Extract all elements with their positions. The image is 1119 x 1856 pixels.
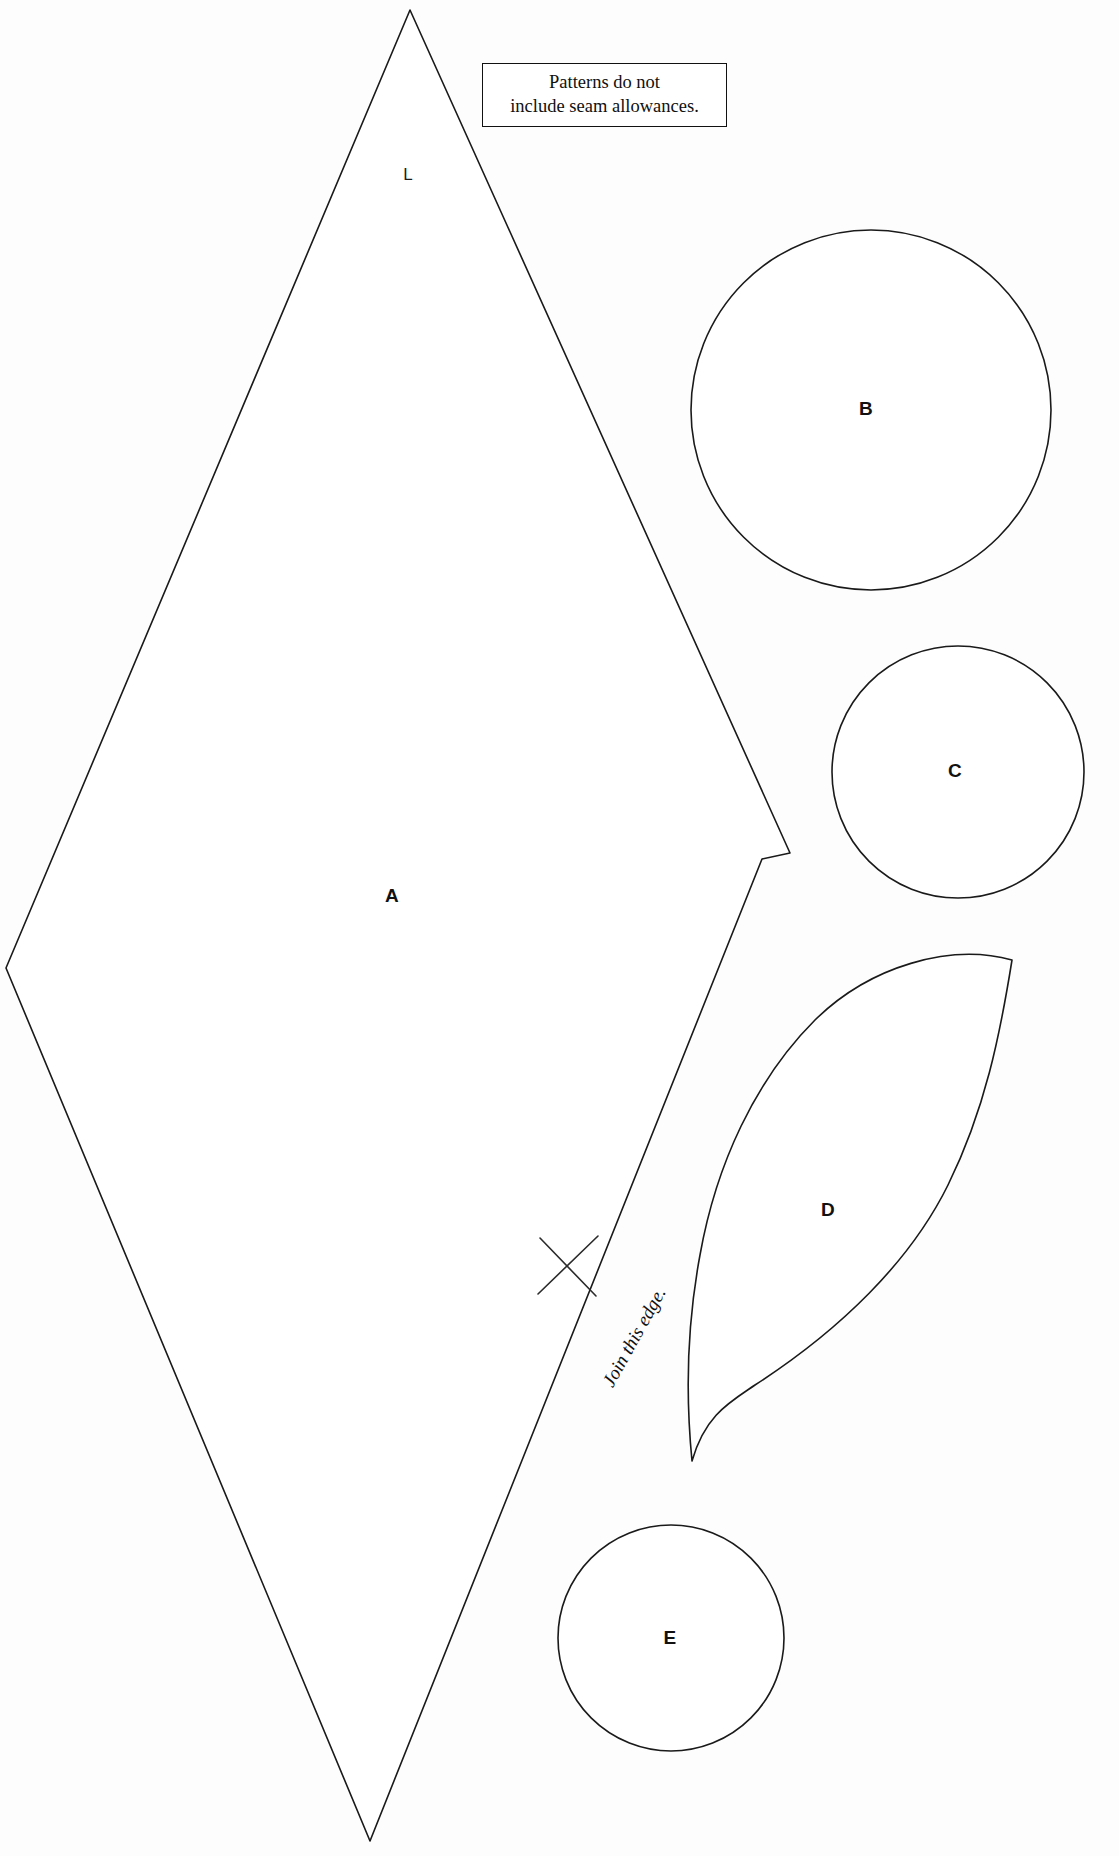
piece-label-c: C [948,760,962,782]
piece-label-e: E [664,1627,677,1649]
piece-label-b: B [859,398,873,420]
piece-label-d: D [821,1199,835,1221]
piece-label-a: A [385,885,399,907]
note-line-1: Patterns do not [549,71,660,95]
piece-outline-d[interactable] [688,954,1012,1461]
grainline-label-l: L [403,165,412,185]
pattern-sheet: Patterns do not include seam allowances.… [0,0,1119,1856]
seam-allowance-note-box: Patterns do not include seam allowances. [482,63,727,127]
note-line-2: include seam allowances. [510,95,699,119]
pattern-pieces-canvas [0,0,1119,1856]
